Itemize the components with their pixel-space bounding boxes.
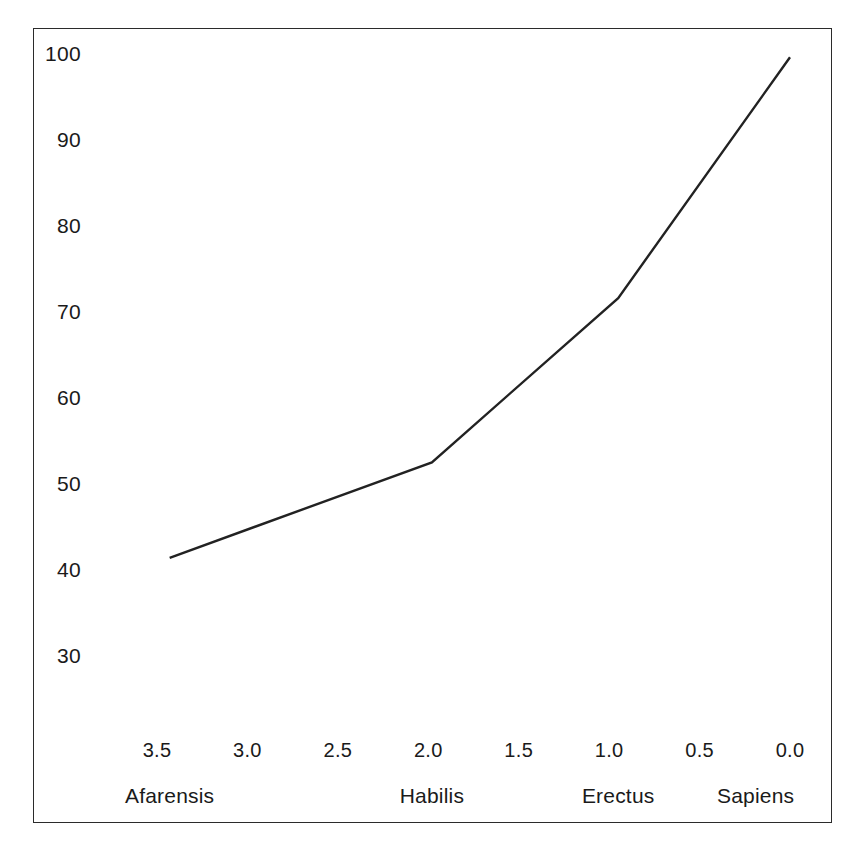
chart-figure: 10090807060504030 3.53.02.52.01.51.00.50… [0,0,854,852]
figure-border [33,28,832,823]
